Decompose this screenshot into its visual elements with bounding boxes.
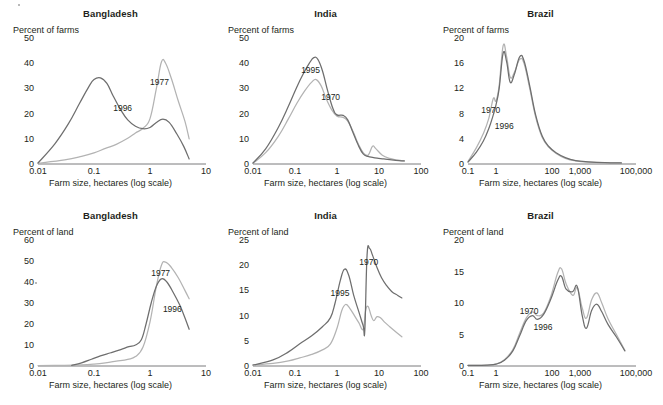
x-tick-label: 100 <box>413 167 428 176</box>
y-tick-label: 8 <box>434 109 464 118</box>
y-tick-label: 10 <box>219 311 249 320</box>
series-label-1995: 1995 <box>301 66 320 75</box>
x-axis-title: Farm size, hectares (log scale) <box>430 380 651 390</box>
y-tick-label: 5 <box>434 330 464 339</box>
series-line-1970 <box>468 268 625 366</box>
y-tick-label: 0 <box>434 160 464 169</box>
panel-title: Brazil <box>430 210 651 221</box>
plot-area <box>468 38 636 164</box>
x-tick-label: 100,000 <box>620 167 653 176</box>
x-tick-label: 10 <box>201 167 211 176</box>
y-tick-label: 15 <box>219 286 249 295</box>
series-line-1995 <box>253 57 404 163</box>
chart-panel-brazil-land: BrazilPercent of landFarm size, hectares… <box>430 202 651 404</box>
x-tick-label: 1 <box>147 369 152 378</box>
chart-panel-india-land: IndiaPercent of landFarm size, hectares … <box>215 202 436 404</box>
x-tick-label: 0.01 <box>244 369 262 378</box>
y-tick-label: 20 <box>434 236 464 245</box>
y-tick-label: 4 <box>434 134 464 143</box>
y-tick-label: 20 <box>434 34 464 43</box>
chart-panel-brazil-farms: BrazilPercent of farmsFarm size, hectare… <box>430 0 651 202</box>
y-tick-label: 10 <box>434 299 464 308</box>
x-tick-label: 0.1 <box>88 167 101 176</box>
plot-area <box>38 38 206 164</box>
series-label-1970: 1970 <box>321 93 340 102</box>
x-axis-title: Farm size, hectares (log scale) <box>215 178 436 188</box>
y-tick-label: 40 <box>219 59 249 68</box>
x-tick-label: 0.1 <box>462 369 475 378</box>
x-tick-label: 1 <box>493 369 498 378</box>
plot-area <box>468 240 636 366</box>
x-axis-title: Farm size, hectares (log scale) <box>215 380 436 390</box>
panel-title: India <box>215 8 436 19</box>
x-tick-label: 10 <box>201 369 211 378</box>
farm-size-distribution-figure: BangladeshPercent of farmsFarm size, hec… <box>0 0 663 405</box>
x-tick-label: 10 <box>374 167 384 176</box>
y-tick-label: 25 <box>219 236 249 245</box>
series-line-1970 <box>468 44 621 163</box>
x-axis-title: Farm size, hectares (log scale) <box>0 380 221 390</box>
x-tick-label: 0.01 <box>29 167 47 176</box>
y-tick-label: 30 <box>4 299 34 308</box>
y-tick-label: 20 <box>4 109 34 118</box>
series-label-1970: 1970 <box>520 307 539 316</box>
y-tick-label: 20 <box>4 320 34 329</box>
x-tick-label: 0.01 <box>29 369 47 378</box>
x-tick-label: 100 <box>544 369 559 378</box>
x-axis-title: Farm size, hectares (log scale) <box>430 178 651 188</box>
y-tick-label: 40 <box>4 59 34 68</box>
x-tick-label: 100 <box>544 167 559 176</box>
x-tick-label: 1 <box>334 369 339 378</box>
x-tick-label: 0.1 <box>462 167 475 176</box>
y-tick-label: 60 <box>4 236 34 245</box>
x-tick-label: 100,000 <box>620 369 653 378</box>
y-tick-label: 5 <box>219 336 249 345</box>
panel-title: Bangladesh <box>0 210 221 221</box>
y-tick-label: 30 <box>219 84 249 93</box>
series-label-1977: 1977 <box>150 78 169 87</box>
y-tick-label: 0 <box>434 362 464 371</box>
x-tick-label: 10 <box>374 369 384 378</box>
y-tick-label: 50 <box>4 34 34 43</box>
plot-area <box>253 240 421 366</box>
series-label-1995: 1995 <box>330 289 349 298</box>
x-axis-title: Farm size, hectares (log scale) <box>0 178 221 188</box>
x-tick-label: 1 <box>147 167 152 176</box>
y-tick-label: 15 <box>434 267 464 276</box>
x-tick-label: 1,000 <box>569 167 592 176</box>
series-line-1996 <box>38 78 189 163</box>
series-label-1996: 1996 <box>495 122 514 131</box>
y-tick-label: 50 <box>4 257 34 266</box>
y-tick-label: 20 <box>219 109 249 118</box>
series-label-1996: 1996 <box>163 305 182 314</box>
series-label-1996: 1996 <box>534 323 553 332</box>
panel-title: India <box>215 210 436 221</box>
x-tick-label: 0.1 <box>289 369 302 378</box>
series-line-1996 <box>72 279 189 366</box>
series-label-1970: 1970 <box>359 258 378 267</box>
x-tick-label: 0.01 <box>244 167 262 176</box>
chart-panel-india-farms: IndiaPercent of farmsFarm size, hectares… <box>215 0 436 202</box>
series-label-1977: 1977 <box>151 269 170 278</box>
panel-title: Bangladesh <box>0 8 221 19</box>
y-tick-label: 40 <box>4 278 34 287</box>
y-tick-label: 20 <box>219 261 249 270</box>
series-label-1996: 1996 <box>113 104 132 113</box>
plot-area <box>38 240 206 366</box>
y-tick-label: 30 <box>4 84 34 93</box>
chart-panel-bangladesh-land: BangladeshPercent of landFarm size, hect… <box>0 202 221 404</box>
x-tick-label: 0.1 <box>289 167 302 176</box>
y-tick-label: 10 <box>4 134 34 143</box>
panel-title: Brazil <box>430 8 651 19</box>
x-tick-label: 1 <box>334 167 339 176</box>
series-line-1970 <box>253 304 402 365</box>
x-tick-label: 1 <box>493 167 498 176</box>
x-tick-label: 100 <box>413 369 428 378</box>
y-tick-label: 10 <box>4 341 34 350</box>
y-tick-label: 10 <box>219 134 249 143</box>
chart-panel-bangladesh-farms: BangladeshPercent of farmsFarm size, hec… <box>0 0 221 202</box>
series-line-1996 <box>468 276 625 366</box>
y-tick-label: 12 <box>434 84 464 93</box>
y-tick-label: 16 <box>434 59 464 68</box>
x-tick-label: 1,000 <box>569 369 592 378</box>
